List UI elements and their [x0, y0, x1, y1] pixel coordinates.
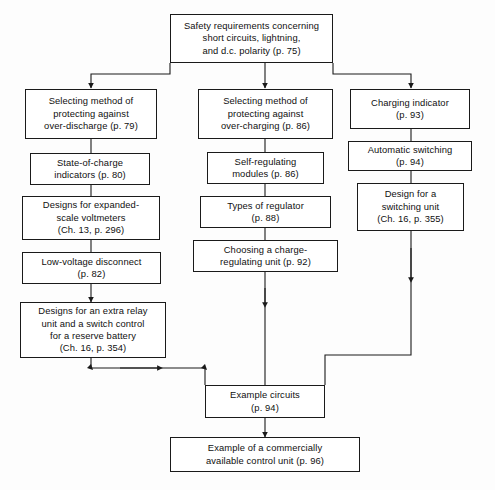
node-label: State-of-charge indicators (p. 80) [50, 157, 130, 182]
node-state-of-charge-indicators[interactable]: State-of-charge indicators (p. 80) [30, 153, 150, 185]
node-example-circuits[interactable]: Example circuits (p. 94) [205, 385, 325, 418]
node-choosing-charge-regulating-unit[interactable]: Choosing a charge- regulating unit (p. 9… [193, 240, 338, 272]
node-label: Automatic switching (p. 94) [364, 144, 457, 169]
node-label: Choosing a charge- regulating unit (p. 9… [216, 244, 315, 269]
node-expanded-scale-voltmeters[interactable]: Designs for expanded- scale voltmeters (… [22, 196, 160, 240]
node-label: Designs for expanded- scale voltmeters (… [39, 199, 143, 236]
edge-safety-to-over-discharge [91, 63, 170, 88]
node-self-regulating-modules[interactable]: Self-regulating modules (p. 86) [207, 152, 324, 184]
node-label: Design for a switching unit (Ch. 16, p. … [373, 188, 448, 225]
edge-relay-unit-to-example-circuits [91, 358, 205, 385]
node-label: Charging indicator (p. 93) [367, 97, 453, 122]
node-types-of-regulator[interactable]: Types of regulator (p. 88) [200, 196, 331, 228]
node-label: Types of regulator (p. 88) [223, 200, 308, 225]
node-extra-relay-unit[interactable]: Designs for an extra relay unit and a sw… [20, 302, 166, 358]
node-label: Example circuits (p. 94) [226, 389, 304, 414]
node-automatic-switching[interactable]: Automatic switching (p. 94) [348, 141, 472, 171]
node-label: Selecting method of protecting against o… [40, 95, 142, 132]
node-label: Selecting method of protecting against o… [217, 95, 314, 132]
edge-safety-to-charging-indicator [333, 63, 411, 88]
node-design-switching-unit[interactable]: Design for a switching unit (Ch. 16, p. … [357, 183, 464, 231]
node-label: Self-regulating modules (p. 86) [228, 156, 303, 181]
node-label: Designs for an extra relay unit and a sw… [34, 305, 151, 355]
node-label: Low-voltage disconnect (p. 82) [37, 256, 145, 281]
node-selecting-over-discharge[interactable]: Selecting method of protecting against o… [25, 89, 157, 139]
node-safety-requirements[interactable]: Safety requirements concerning short cir… [170, 14, 333, 63]
node-label: Example of a commercially available cont… [202, 442, 328, 467]
node-selecting-over-charging[interactable]: Selecting method of protecting against o… [198, 89, 333, 139]
node-charging-indicator[interactable]: Charging indicator (p. 93) [350, 89, 470, 129]
node-commercial-control-unit[interactable]: Example of a commercially available cont… [170, 437, 360, 472]
node-label: Safety requirements concerning short cir… [180, 20, 323, 57]
flowchart-canvas: Safety requirements concerning short cir… [0, 0, 495, 490]
node-low-voltage-disconnect[interactable]: Low-voltage disconnect (p. 82) [22, 252, 161, 284]
